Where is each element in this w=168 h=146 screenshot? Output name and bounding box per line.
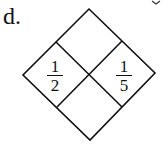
diamond-diagram bbox=[0, 0, 168, 146]
fraction-right-denominator: 5 bbox=[116, 76, 132, 94]
fraction-left-denominator: 2 bbox=[47, 76, 63, 94]
fraction-left: 1 2 bbox=[47, 58, 63, 94]
fraction-right: 1 5 bbox=[116, 58, 132, 94]
fraction-right-numerator: 1 bbox=[116, 58, 132, 76]
edge-mark bbox=[152, 1, 160, 4]
fraction-left-numerator: 1 bbox=[47, 58, 63, 76]
